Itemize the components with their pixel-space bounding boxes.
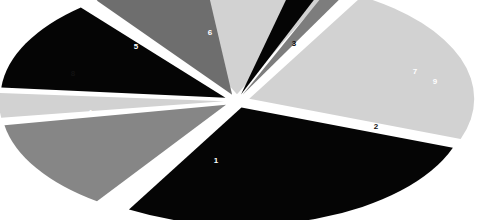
pie-slice-label-2: 2 [374, 122, 379, 131]
pie-slice-label-9: 9 [433, 77, 438, 86]
pie-slice-label-6: 6 [208, 28, 213, 37]
pie-slice-label-1: 1 [214, 156, 219, 165]
pie-slice-label-8: 8 [71, 69, 76, 78]
pie-slice-label-5: 5 [134, 42, 139, 51]
pie-slice-label-4: 4 [88, 108, 93, 117]
pie-slice-label-3: 3 [292, 39, 297, 48]
pie-chart-svg: 123456789 [0, 0, 477, 220]
pie-slice-label-7: 7 [413, 67, 418, 76]
pie-slices [0, 0, 474, 220]
pie-chart-container: 123456789 [0, 0, 477, 220]
